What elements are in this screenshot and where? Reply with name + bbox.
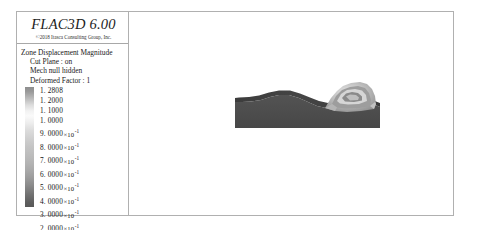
app-title: FLAC3D 6.00 [23, 16, 124, 32]
tick-times-symbol: ×10 [63, 198, 75, 205]
legend-panel: FLAC3D 6.00 ©2018 Itasca Consulting Grou… [17, 12, 129, 215]
tick-exponent: -1 [75, 128, 79, 134]
tick-times-symbol: ×10 [63, 185, 75, 192]
copyright-notice: ©2018 Itasca Consulting Group, Inc. [23, 33, 124, 41]
colorbar-tick: 6. 0000×10-1 [40, 167, 128, 181]
legend-info-mech-null: Mech null hidden [21, 66, 128, 75]
model-viewport[interactable] [129, 12, 453, 215]
tick-times-symbol: ×10 [63, 144, 75, 151]
colorbar-tick: 1. 2808 [40, 86, 128, 96]
colorbar-row: 1. 28081. 20001. 10001. 00009. 0000×10-1… [21, 87, 128, 209]
tick-exponent: -1 [75, 196, 79, 202]
tick-mantissa: 3. 0000 [40, 211, 63, 220]
crater-feature [325, 82, 376, 112]
tick-exponent: -1 [75, 209, 79, 215]
colorbar-tick: 8. 0000×10-1 [40, 140, 128, 154]
tick-exponent: -1 [75, 223, 79, 229]
tick-times-symbol: ×10 [63, 131, 75, 138]
legend-info-deformed-factor: Deformed Factor : 1 [21, 76, 128, 85]
tick-mantissa: 5. 0000 [40, 184, 63, 193]
tick-mantissa: 4. 0000 [40, 197, 63, 206]
tick-mantissa: 9. 0000 [40, 130, 63, 139]
tick-times-symbol: ×10 [63, 212, 75, 219]
title-block: FLAC3D 6.00 ©2018 Itasca Consulting Grou… [17, 12, 128, 44]
tick-exponent: -1 [75, 155, 79, 161]
tick-mantissa: 1. 1000 [40, 106, 63, 115]
tick-exponent: -1 [75, 182, 79, 188]
colorbar-tick: 1. 1000 [40, 106, 128, 116]
tick-mantissa: 1. 0000 [40, 116, 63, 125]
colorbar-tick: 3. 0000×10-1 [40, 207, 128, 221]
tick-exponent: -1 [75, 142, 79, 148]
tick-times-symbol: ×10 [63, 225, 75, 230]
plot-frame: FLAC3D 6.00 ©2018 Itasca Consulting Grou… [16, 11, 454, 216]
colorbar-tick: 9. 0000×10-1 [40, 126, 128, 140]
legend-body: Zone Displacement Magnitude Cut Plane : … [17, 44, 128, 209]
colorbar-tick: 7. 0000×10-1 [40, 153, 128, 167]
colorbar-tick: 1. 2000 [40, 96, 128, 106]
tick-mantissa: 8. 0000 [40, 143, 63, 152]
tick-mantissa: 1. 2000 [40, 96, 63, 105]
tick-times-symbol: ×10 [63, 171, 75, 178]
colorbar-tick: 4. 0000×10-1 [40, 194, 128, 208]
legend-info-cut-plane: Cut Plane : on [21, 57, 128, 66]
colorbar-tick: 5. 0000×10-1 [40, 180, 128, 194]
tick-mantissa: 6. 0000 [40, 170, 63, 179]
tick-mantissa: 7. 0000 [40, 157, 63, 166]
model-geometry [129, 12, 453, 215]
colorbar-tick-list: 1. 28081. 20001. 10001. 00009. 0000×10-1… [40, 86, 128, 230]
legend-heading: Zone Displacement Magnitude [21, 48, 128, 57]
tick-mantissa: 1. 2808 [40, 86, 63, 95]
tick-exponent: -1 [75, 169, 79, 175]
colorbar-tick: 1. 0000 [40, 116, 128, 126]
tick-times-symbol: ×10 [63, 158, 75, 165]
tick-mantissa: 2. 0000 [40, 224, 63, 230]
colorbar-gradient [25, 87, 34, 207]
colorbar-tick: 2. 0000×10-1 [40, 221, 128, 230]
